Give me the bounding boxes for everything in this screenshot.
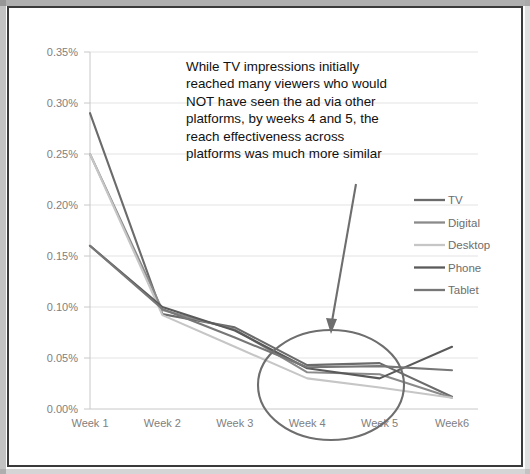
- legend-label-tv: TV: [448, 194, 463, 206]
- y-tick-label: 0.05%: [47, 352, 78, 364]
- y-tick-marks: [84, 52, 90, 409]
- y-tick-label: 0.25%: [47, 148, 78, 160]
- x-axis-labels: Week 1Week 2Week 3Week 4Week 5Week6: [71, 417, 469, 429]
- y-tick-label: 0.30%: [47, 97, 78, 109]
- callout-annotation: [258, 184, 404, 440]
- annotation-line: reached many viewers who would: [186, 75, 438, 92]
- x-tick-label: Week6: [435, 417, 469, 429]
- annotation-line: reach effectiveness across: [186, 128, 438, 145]
- annotation-text-block: While TV impressions initiallyreached ma…: [186, 58, 438, 162]
- y-tick-label: 0.20%: [47, 199, 78, 211]
- legend-label-tablet: Tablet: [448, 284, 479, 296]
- y-tick-label: 0.00%: [47, 403, 78, 415]
- highlight-ellipse: [258, 330, 404, 440]
- line-chart: 0.00%0.05%0.10%0.15%0.20%0.25%0.30%0.35%…: [0, 0, 530, 474]
- arrow-head: [326, 318, 337, 334]
- y-axis-labels: 0.00%0.05%0.10%0.15%0.20%0.25%0.30%0.35%: [47, 46, 78, 415]
- x-tick-label: Week 4: [289, 417, 326, 429]
- y-tick-label: 0.35%: [47, 46, 78, 58]
- legend-label-desktop: Desktop: [448, 239, 490, 251]
- legend-label-phone: Phone: [448, 262, 481, 274]
- annotation-line: platforms, by weeks 4 and 5, the: [186, 110, 438, 127]
- y-tick-label: 0.10%: [47, 301, 78, 313]
- x-tick-label: Week 1: [71, 417, 108, 429]
- annotation-line: NOT have seen the ad via other: [186, 93, 438, 110]
- legend-label-digital: Digital: [448, 217, 480, 229]
- annotation-line: While TV impressions initially: [186, 58, 438, 75]
- y-tick-label: 0.15%: [47, 250, 78, 262]
- screenshot-frame: 0.00%0.05%0.10%0.15%0.20%0.25%0.30%0.35%…: [0, 0, 530, 474]
- annotation-line: platforms was much more similar: [186, 145, 438, 162]
- legend: TVDigitalDesktopPhoneTablet: [414, 194, 490, 296]
- x-tick-label: Week 2: [144, 417, 181, 429]
- x-tick-label: Week 3: [216, 417, 253, 429]
